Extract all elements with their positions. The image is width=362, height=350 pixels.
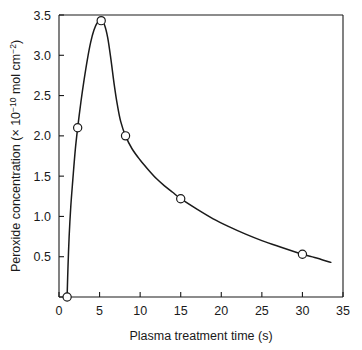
x-tick-label: 20 <box>214 304 228 318</box>
y-tick-label: 1.5 <box>34 170 51 184</box>
y-tick-label: 2.0 <box>34 129 51 143</box>
x-tick-label: 35 <box>336 304 350 318</box>
y-axis-label-main: Peroxide concentration (× 10 <box>9 112 23 272</box>
data-point-marker <box>177 195 185 203</box>
y-axis-label-exponent-1: −10 <box>8 97 18 112</box>
y-tick-label: 3.5 <box>34 9 51 23</box>
y-axis-label-exponent-2: −2 <box>8 44 18 54</box>
data-point-marker <box>298 250 306 258</box>
y-tick-label: 0.5 <box>34 250 51 264</box>
x-tick-label: 0 <box>56 304 63 318</box>
y-axis-label: Peroxide concentration (× 10−10 mol cm−2… <box>8 40 23 272</box>
x-tick-label: 30 <box>295 304 309 318</box>
y-tick-label: 3.0 <box>34 49 51 63</box>
y-axis-label-tail: ) <box>9 40 23 44</box>
data-point-marker <box>121 132 129 140</box>
chart-figure: 05101520253035 0.51.01.52.02.53.03.5 Pla… <box>0 0 362 350</box>
y-tick-label: 2.5 <box>34 89 51 103</box>
x-tick-label: 15 <box>174 304 188 318</box>
data-point-marker <box>97 17 105 25</box>
svg-text:Peroxide concentration (× 10−1: Peroxide concentration (× 10−10 mol cm−2… <box>8 40 23 272</box>
data-point-marker <box>63 293 71 301</box>
x-tick-label: 25 <box>255 304 269 318</box>
peroxide-concentration-line-chart: 05101520253035 0.51.01.52.02.53.03.5 Pla… <box>0 0 362 350</box>
y-axis-label-middle: mol cm <box>9 54 23 98</box>
y-tick-label: 1.0 <box>34 210 51 224</box>
x-axis-label: Plasma treatment time (s) <box>129 329 272 343</box>
x-tick-label: 10 <box>133 304 147 318</box>
x-tick-label: 5 <box>96 304 103 318</box>
data-point-marker <box>74 124 82 132</box>
